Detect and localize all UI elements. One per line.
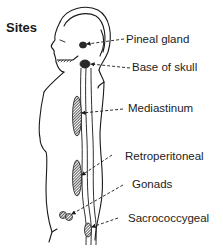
- label-gonads: Gonads: [132, 178, 172, 190]
- base-of-skull-lesion: [80, 60, 90, 68]
- label-sacrococcygeal: Sacrococcygeal: [128, 212, 209, 224]
- leader-lines: [72, 39, 130, 227]
- mediastinum-lesion: [73, 96, 82, 136]
- gonads-lesion-right: [66, 214, 73, 221]
- sacrococcygeal-lesion: [85, 223, 92, 237]
- label-base-of-skull: Base of skull: [132, 61, 197, 73]
- pineal-gland-lesion: [80, 42, 87, 48]
- label-retroperitoneal: Retroperitoneal: [125, 150, 204, 162]
- label-mediastinum: Mediastinum: [128, 102, 193, 114]
- retroperitoneal-lesion: [73, 160, 82, 196]
- label-pineal-gland: Pineal gland: [126, 33, 189, 45]
- spinal-cord: [81, 68, 97, 245]
